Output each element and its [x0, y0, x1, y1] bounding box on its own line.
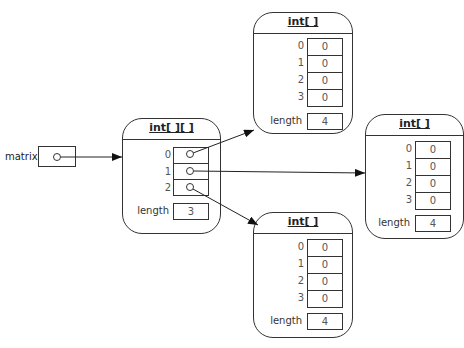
top-index-3: 3 — [290, 89, 304, 105]
bottom-cell-2: 0 — [307, 273, 343, 291]
outer-length-value: 3 — [173, 203, 209, 220]
right-index-2: 2 — [398, 175, 412, 191]
outer-length-label: length — [127, 203, 169, 219]
top-length-label: length — [260, 113, 302, 129]
top-index-0: 0 — [290, 38, 304, 54]
top-index-1: 1 — [290, 55, 304, 71]
outer-cell-2 — [173, 179, 209, 196]
right-index-0: 0 — [398, 141, 412, 157]
inner-array-top-object: int[ ] 0 1 2 3 0 0 0 0 length 4 — [253, 12, 353, 134]
matrix-reference-box — [38, 146, 76, 167]
bottom-index-3: 3 — [290, 290, 304, 306]
top-cell-1: 0 — [307, 55, 343, 73]
right-cell-0: 0 — [415, 141, 451, 159]
right-index-1: 1 — [398, 158, 412, 174]
inner-array-bottom-type-title: int[ ] — [254, 215, 352, 228]
inner-array-bottom-divider — [254, 233, 352, 234]
bottom-index-1: 1 — [290, 256, 304, 272]
outer-index-1: 1 — [157, 164, 171, 180]
outer-cell-1 — [173, 163, 209, 180]
bottom-length-label: length — [260, 313, 302, 329]
bottom-cell-0: 0 — [307, 239, 343, 257]
right-length-label: length — [368, 215, 410, 231]
top-index-2: 2 — [290, 72, 304, 88]
inner-array-bottom-object: int[ ] 0 1 2 3 0 0 0 0 length 4 — [253, 212, 353, 338]
outer-index-0: 0 — [157, 147, 171, 163]
right-length-value: 4 — [415, 215, 451, 232]
bottom-length-value: 4 — [307, 313, 343, 330]
inner-array-right-type-title: int[ ] — [366, 117, 463, 130]
outer-array-object: int[ ][ ] 0 1 2 length 3 — [122, 118, 221, 234]
outer-array-type-title: int[ ][ ] — [123, 121, 220, 134]
outer-array-divider — [123, 139, 220, 140]
inner-array-right-object: int[ ] 0 1 2 3 0 0 0 0 length 4 — [365, 114, 464, 239]
right-cell-1: 0 — [415, 158, 451, 176]
top-cell-3: 0 — [307, 89, 343, 107]
top-cell-0: 0 — [307, 38, 343, 56]
right-cell-2: 0 — [415, 175, 451, 193]
matrix-label: matrix — [5, 150, 38, 164]
top-length-value: 4 — [307, 113, 343, 130]
top-cell-2: 0 — [307, 72, 343, 90]
bottom-cell-1: 0 — [307, 256, 343, 274]
right-index-3: 3 — [398, 192, 412, 208]
right-cell-3: 0 — [415, 192, 451, 210]
bottom-cell-3: 0 — [307, 290, 343, 308]
outer-index-2: 2 — [157, 180, 171, 196]
bottom-index-0: 0 — [290, 239, 304, 255]
bottom-index-2: 2 — [290, 273, 304, 289]
inner-array-right-divider — [366, 135, 463, 136]
inner-array-top-type-title: int[ ] — [254, 15, 352, 28]
outer-cell-0 — [173, 147, 209, 164]
inner-array-top-divider — [254, 33, 352, 34]
